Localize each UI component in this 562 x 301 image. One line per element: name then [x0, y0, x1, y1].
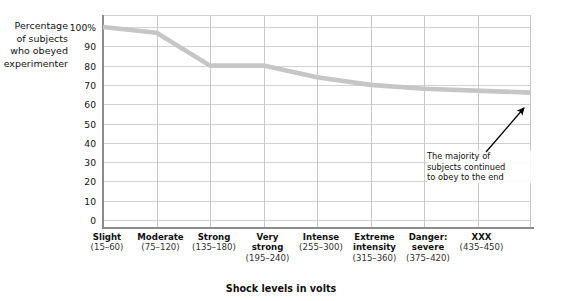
- x-tick-danger-severe-range: (375–420): [397, 253, 459, 263]
- y-axis-label-line-2: of subjects: [0, 33, 68, 46]
- annotation-line-2: subjects continued: [427, 162, 533, 173]
- annotation-arrow-icon: [480, 100, 540, 155]
- y-tick-10: 10: [68, 197, 96, 206]
- y-tick-20: 20: [68, 177, 96, 186]
- x-tick-xxx-name: XXX: [451, 232, 513, 242]
- y-tick-90: 90: [68, 42, 96, 51]
- y-axis-label: Percentage of subjects who obeyed experi…: [0, 20, 68, 70]
- y-tick-70: 70: [68, 81, 96, 90]
- y-tick-80: 80: [68, 62, 96, 71]
- y-tick-30: 30: [68, 158, 96, 167]
- annotation-line-3: to obey to the end: [427, 172, 533, 183]
- y-tick-0: 0: [68, 216, 96, 225]
- y-axis-label-line-3: who obeyed: [0, 45, 68, 58]
- annotation-callout: The majority of subjects continued to ob…: [427, 151, 533, 183]
- y-axis-label-line-4: experimenter: [0, 58, 68, 71]
- chart-figure: Percentage of subjects who obeyed experi…: [0, 0, 562, 301]
- y-tick-40: 40: [68, 139, 96, 148]
- x-tick-very-strong-range: (195–240): [237, 253, 299, 263]
- y-tick-50: 50: [68, 120, 96, 129]
- y-axis-label-line-1: Percentage: [0, 20, 68, 33]
- x-tick-xxx-range: (435–450): [451, 242, 513, 252]
- x-tick-xxx: XXX (435–450): [451, 232, 513, 253]
- y-tick-60: 60: [68, 100, 96, 109]
- y-tick-100: 100%: [68, 23, 96, 32]
- x-axis-line: [102, 227, 534, 229]
- x-axis-label: Shock levels in volts: [0, 283, 562, 294]
- data-series-obedience: [103, 15, 531, 227]
